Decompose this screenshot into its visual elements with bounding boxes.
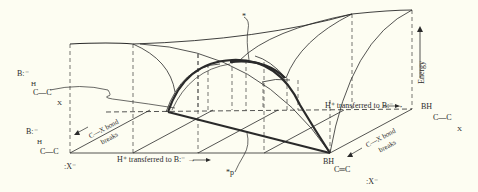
corner-tl-x: X [57, 100, 62, 107]
reaction-path [168, 60, 330, 153]
corner-tl-base: B:⁻ [17, 70, 29, 78]
front-axis-label: H⁺ transferred to B:⁻ → [117, 156, 195, 164]
leader-line-top-left [50, 87, 175, 109]
ts-leader-line [244, 17, 249, 60]
floor-plane [70, 104, 412, 153]
energy-axis-label: Energy [418, 61, 426, 84]
corner-tl-h: H [31, 81, 36, 88]
projection-label: *p [226, 169, 234, 177]
right-depth-arrow [347, 148, 362, 157]
front-axis-arrow [193, 158, 211, 162]
corner-bl-cc: C—C [40, 148, 59, 156]
corner-tr-x: X [457, 126, 462, 133]
corner-bl-leaving: :X⁻ [64, 163, 76, 171]
transition-state-label: * [242, 13, 246, 21]
corner-tl-cc: C—C [33, 89, 52, 97]
corner-br-base: BH [323, 158, 334, 166]
corner-bl-h: H [37, 139, 42, 146]
corner-bl-base: B:⁻ [26, 128, 38, 136]
left-depth-arrow [74, 127, 88, 135]
corner-tr-base: BH [421, 103, 432, 111]
back-axis-label: H⁺ transferred to B:⁻ → [325, 102, 403, 110]
p-leader-line [235, 133, 248, 172]
corner-br-leaving: :X⁻ [366, 178, 378, 186]
corner-br-cc: C═C [334, 166, 350, 174]
corner-tr-cc: C—C [433, 114, 452, 122]
